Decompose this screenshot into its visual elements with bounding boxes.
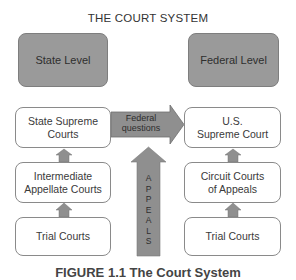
federal-trial-courts-label: Trial Courts xyxy=(206,230,260,243)
appeals-letter: S xyxy=(137,236,160,247)
state-trial-courts-box: Trial Courts xyxy=(15,217,111,256)
appeals-letter: A xyxy=(137,215,160,226)
arrow-up-icon xyxy=(56,149,72,162)
intermediate-appellate-courts-box: Intermediate Appellate Courts xyxy=(15,162,111,203)
arrow-up-icon xyxy=(56,203,72,217)
us-supreme-court-label: U.S. Supreme Court xyxy=(197,115,268,141)
us-supreme-court-box: U.S. Supreme Court xyxy=(184,107,281,148)
state-trial-courts-label: Trial Courts xyxy=(36,230,90,243)
appeals-letter: E xyxy=(137,205,160,216)
federal-questions-label: Federal questions xyxy=(111,113,171,133)
state-supreme-courts-label: State Supreme Courts xyxy=(28,115,98,141)
appeals-letter: P xyxy=(137,184,160,195)
state-supreme-courts-box: State Supreme Courts xyxy=(15,107,111,148)
circuit-courts-of-appeals-label: Circuit Courts of Appeals xyxy=(201,170,265,196)
arrow-up-icon xyxy=(225,203,241,217)
appeals-label: A P P E A L S xyxy=(137,173,160,247)
intermediate-appellate-courts-label: Intermediate Appellate Courts xyxy=(24,170,102,196)
federal-trial-courts-box: Trial Courts xyxy=(184,217,281,256)
circuit-courts-of-appeals-box: Circuit Courts of Appeals xyxy=(184,162,281,203)
appeals-letter: L xyxy=(137,226,160,237)
arrow-up-icon xyxy=(225,149,241,162)
figure-caption: FIGURE 1.1 The Court System xyxy=(0,265,296,280)
appeals-letter: A xyxy=(137,173,160,184)
appeals-letter: P xyxy=(137,194,160,205)
